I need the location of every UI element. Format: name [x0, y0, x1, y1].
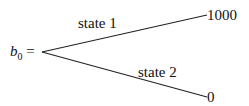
edge-state-2: [42, 52, 207, 97]
payoff-state-1: 1000: [207, 8, 237, 23]
root-node: b0 =: [10, 44, 35, 62]
root-variable: b: [10, 43, 18, 59]
equals-sign: =: [26, 43, 34, 59]
branch-label-state-2: state 2: [138, 65, 177, 80]
payoff-state-2: 0: [207, 90, 215, 105]
root-subscript: 0: [18, 51, 23, 62]
edge-state-1: [42, 15, 207, 52]
branch-label-state-1: state 1: [78, 16, 117, 31]
payoff-tree-diagram: b0 = state 1 state 2 1000 0: [0, 0, 249, 106]
